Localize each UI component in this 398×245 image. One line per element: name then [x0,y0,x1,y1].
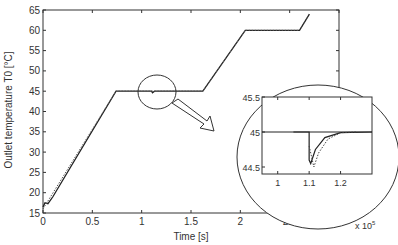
inset-y-tick-label: 45.5 [242,93,260,103]
x-multiplier: x 105 [355,220,376,231]
x-tick-label: 1 [139,216,145,227]
y-tick-label: 50 [29,65,41,76]
inset-x-tick-label: 1 [275,178,280,188]
y-tick-label: 20 [29,187,41,198]
y-tick-label: 35 [29,126,41,137]
x-tick-label: 0.5 [85,216,99,227]
x-axis-label: Time [s] [173,231,208,242]
y-tick-label: 30 [29,147,41,158]
y-tick-label: 45 [29,86,41,97]
highlight-circle [138,75,176,109]
inset-y-tick-label: 45 [250,128,260,138]
y-tick-label: 25 [29,167,41,178]
y-tick-label: 55 [29,45,41,56]
y-tick-label: 65 [29,5,41,16]
y-axis-label: Outlet temperature T0 [°C] [3,51,14,168]
chart: 1520253035404550556065 00.511.522.53 Out… [0,0,398,245]
inset-x-tick-label: 1.2 [334,178,347,188]
y-tick-label: 60 [29,25,41,36]
arrow-icon [172,99,214,131]
inset-plot-area [262,97,372,174]
x-tick-label: 0 [40,216,46,227]
inset-y-tick-label: 44.5 [242,163,260,173]
x-tick-label: 1.5 [184,216,198,227]
y-tick-label: 40 [29,106,41,117]
y-tick-label: 15 [29,208,41,219]
x-tick-label: 2 [238,216,244,227]
inset-x-tick-label: 1.1 [303,178,316,188]
